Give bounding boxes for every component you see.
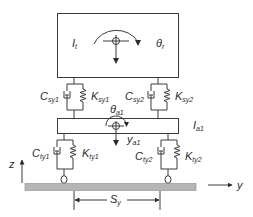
axle-rotation-label: θa1	[110, 103, 124, 116]
y-axis: y	[208, 179, 244, 191]
secondary-suspension-right: Csy2 Ksy2	[125, 78, 193, 118]
damper-ty1-label: Cty1	[32, 147, 49, 161]
spring-sy2-label: Ksy2	[175, 90, 193, 104]
body-rotation-arrowhead-icon	[135, 40, 141, 46]
damper-ty2-label: Cty2	[135, 150, 152, 164]
dimension-sy: Sy	[74, 191, 160, 210]
axle-displacement-label: ya1	[126, 133, 140, 146]
secondary-suspension-left: Csy1 Ksy1	[40, 78, 109, 118]
body-rotation-label: θr	[156, 37, 165, 50]
spring-ty2-icon	[174, 140, 180, 169]
wheel-left-icon	[61, 176, 67, 184]
body-cg-symbol-icon	[103, 35, 129, 64]
spring-ty1-label: Kty1	[82, 147, 99, 161]
suspension-diagram: It θr Csy1 Ksy1 Csy2 Ksy2	[0, 0, 253, 217]
spring-ty2-label: Kty2	[185, 150, 202, 164]
spring-sy2-icon	[164, 84, 170, 110]
car-body: It θr	[58, 14, 179, 78]
spring-sy1-label: Ksy1	[91, 90, 109, 104]
body-inertia-label: It	[72, 37, 78, 50]
axle-rotation-arrowhead-icon	[124, 122, 129, 127]
primary-suspension-left: Cty1 Kty1	[32, 134, 99, 183]
dimension-sy-label: Sy	[110, 193, 121, 207]
axle: θa1 Ia1 ya1	[58, 103, 204, 146]
z-axis: z	[8, 158, 22, 183]
y-axis-label: y	[236, 179, 244, 191]
ground-rail	[25, 184, 196, 191]
damper-sy1-label: Csy1	[40, 90, 59, 104]
spring-ty1-icon	[70, 140, 76, 169]
damper-sy2-label: Csy2	[125, 90, 144, 104]
spring-sy1-icon	[80, 84, 86, 110]
primary-suspension-right: Cty2 Kty2	[135, 134, 202, 183]
z-axis-label: z	[8, 158, 15, 170]
wheel-right-icon	[165, 176, 171, 184]
axle-inertia-label: Ia1	[193, 119, 204, 132]
